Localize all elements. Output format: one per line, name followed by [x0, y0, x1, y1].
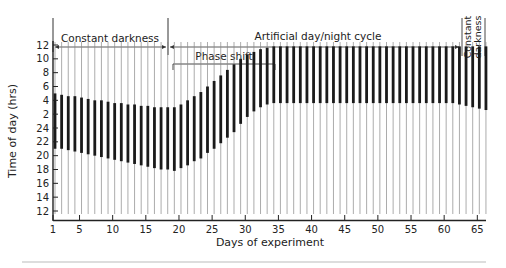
- activity-band: [60, 95, 63, 149]
- activity-band: [286, 46, 289, 103]
- activity-band: [246, 55, 249, 117]
- activity-band: [432, 46, 435, 103]
- activity-bars: [54, 42, 488, 214]
- activity-band: [478, 46, 481, 108]
- x-tick-label: 50: [372, 224, 385, 235]
- x-axis-label: Days of experiment: [216, 236, 325, 249]
- activity-band: [412, 46, 415, 103]
- activity-band: [133, 104, 136, 163]
- activity-band: [418, 46, 421, 103]
- activity-band: [199, 92, 202, 158]
- activity-band: [253, 52, 256, 111]
- activity-band: [219, 75, 222, 143]
- activity-band: [312, 46, 315, 103]
- x-tick-label: 10: [106, 224, 119, 235]
- activity-band: [54, 93, 57, 148]
- y-tick-label: 24: [36, 123, 49, 134]
- x-tick-label: 30: [239, 224, 252, 235]
- x-tick-label: 65: [471, 224, 484, 235]
- activity-band: [405, 46, 408, 103]
- activity-band: [485, 46, 488, 110]
- activity-band: [425, 46, 428, 103]
- activity-band: [465, 46, 468, 105]
- y-tick-label: 16: [36, 178, 49, 189]
- actogram-chart: Constant darknessArtificial day/night cy…: [0, 0, 506, 268]
- activity-band: [292, 46, 295, 103]
- y-tick-label: 20: [36, 150, 49, 161]
- activity-band: [226, 70, 229, 138]
- activity-band: [319, 46, 322, 103]
- activity-band: [233, 64, 236, 132]
- activity-band: [352, 46, 355, 103]
- activity-band: [160, 107, 163, 169]
- activity-band: [392, 46, 395, 103]
- activity-band: [438, 46, 441, 103]
- activity-band: [372, 46, 375, 103]
- y-tick-label: 6: [43, 81, 49, 92]
- y-tick-label: 22: [36, 136, 49, 147]
- activity-band: [385, 46, 388, 103]
- activity-band: [299, 46, 302, 103]
- activity-band: [325, 46, 328, 103]
- annotation-day-night-cycle: Artificial day/night cycle: [255, 30, 382, 42]
- activity-band: [259, 49, 262, 107]
- activity-band: [173, 107, 176, 171]
- x-tick-label: 45: [338, 224, 351, 235]
- activity-band: [345, 46, 348, 103]
- activity-band: [398, 46, 401, 103]
- activity-band: [359, 46, 362, 103]
- activity-band: [180, 104, 183, 168]
- y-tick-label: 10: [36, 53, 49, 64]
- activity-band: [166, 107, 169, 169]
- x-tick-label: 25: [206, 224, 219, 235]
- x-tick-label: 35: [272, 224, 285, 235]
- activity-band: [127, 104, 130, 162]
- activity-band: [471, 46, 474, 107]
- activity-band: [140, 106, 143, 165]
- activity-band: [100, 100, 103, 157]
- y-tick-label: 8: [43, 67, 49, 78]
- activity-band: [365, 46, 368, 103]
- x-tick-label: 15: [139, 224, 152, 235]
- y-tick-label: 12: [36, 40, 49, 51]
- activity-band: [451, 46, 454, 103]
- y-tick-label: 14: [36, 192, 49, 203]
- annotation-constant-darkness: Constant darkness: [61, 32, 159, 44]
- activity-band: [213, 81, 216, 149]
- x-tick-label: 40: [305, 224, 318, 235]
- activity-band: [113, 103, 116, 160]
- x-axis-ticks: 15101520253035404550556065: [50, 215, 484, 235]
- x-tick-label: 5: [76, 224, 82, 235]
- activity-band: [306, 46, 309, 103]
- x-tick-label: 20: [173, 224, 186, 235]
- annotation-phase-shift: Phase shift: [195, 50, 252, 62]
- activity-band: [332, 46, 335, 103]
- y-axis-label: Time of day (hrs): [6, 84, 19, 179]
- activity-band: [193, 96, 196, 161]
- activity-band: [445, 46, 448, 103]
- activity-band: [67, 96, 70, 150]
- y-tick-label: 4: [43, 95, 49, 106]
- activity-band: [266, 48, 269, 105]
- activity-band: [272, 46, 275, 103]
- activity-band: [80, 98, 83, 153]
- activity-band: [186, 100, 189, 165]
- x-tick-label: 1: [50, 224, 56, 235]
- activity-band: [146, 106, 149, 167]
- activity-band: [239, 59, 242, 124]
- activity-band: [339, 46, 342, 103]
- activity-band: [87, 99, 90, 154]
- x-tick-label: 60: [438, 224, 451, 235]
- activity-band: [206, 87, 209, 153]
- activity-band: [93, 100, 96, 155]
- x-tick-label: 55: [405, 224, 418, 235]
- activity-band: [120, 103, 123, 161]
- activity-band: [153, 107, 156, 168]
- activity-band: [279, 46, 282, 103]
- y-tick-label: 18: [36, 164, 49, 175]
- y-tick-label: 2: [43, 109, 49, 120]
- activity-band: [73, 96, 76, 151]
- activity-band: [107, 102, 110, 159]
- y-tick-label: 12: [36, 206, 49, 217]
- activity-band: [458, 46, 461, 104]
